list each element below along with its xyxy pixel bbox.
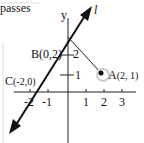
x-tick-2: 2 <box>101 96 107 108</box>
text-fragment: passes <box>0 2 31 14</box>
x-tick-neg2: -2 <box>24 96 34 108</box>
y-tick-1: 1 <box>75 69 81 81</box>
point-a <box>99 71 104 76</box>
point-c-label: C(-2,0) <box>5 75 36 87</box>
x-tick-1: 1 <box>83 96 89 108</box>
y-axis-label: y <box>61 9 67 21</box>
point-b-label: B(0,2) <box>31 48 62 60</box>
line-label: l <box>94 4 97 16</box>
y-tick-2: 2 <box>73 48 79 60</box>
x-tick-neg1: -1 <box>42 96 52 108</box>
point-a-label: A(2, 1) <box>108 69 138 81</box>
x-tick-3: 3 <box>119 96 125 108</box>
arrowhead-up-icon <box>80 6 92 21</box>
coordinate-diagram: passes y l B(0,2) 2 1 C(-2,0) A(2, 1) -2… <box>0 0 144 143</box>
